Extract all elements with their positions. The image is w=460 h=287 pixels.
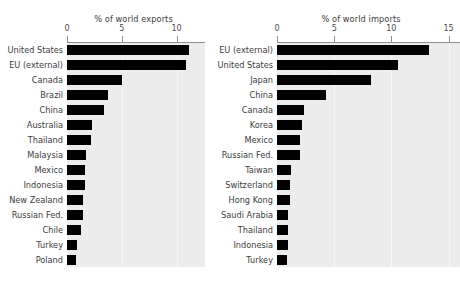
gridline-5 (122, 43, 123, 267)
category-label: Russian Fed. (0, 208, 63, 223)
tick-label-15: 15 (443, 24, 453, 33)
bar (277, 240, 288, 250)
tick-5 (334, 36, 335, 42)
figure-agricultural-trade-shares: % of world exports 0510United StatesEU (… (0, 0, 460, 287)
bar (67, 105, 104, 115)
tick-label-10: 10 (386, 24, 396, 33)
tick-15 (449, 36, 450, 42)
category-label: Indonesia (0, 178, 63, 193)
category-label: Canada (0, 73, 63, 88)
axis-line-imports (277, 42, 460, 43)
bar (277, 150, 300, 160)
tick-10 (391, 36, 392, 42)
bar (67, 120, 92, 130)
category-label: Turkey (0, 238, 63, 253)
gridline-10 (177, 43, 178, 267)
tick-label-0: 0 (274, 24, 279, 33)
axis-line-exports (67, 42, 205, 43)
tick-label-5: 5 (332, 24, 337, 33)
bar (277, 75, 371, 85)
category-label: Taiwan (215, 163, 273, 178)
tick-0 (67, 36, 68, 42)
tick-0 (277, 36, 278, 42)
bar (277, 135, 300, 145)
category-label: United States (215, 58, 273, 73)
bar (277, 255, 287, 265)
category-label: Turkey (215, 253, 273, 268)
bar (277, 195, 290, 205)
tick-5 (122, 36, 123, 42)
bar (67, 165, 85, 175)
category-label: China (0, 103, 63, 118)
tick-label-5: 5 (119, 24, 124, 33)
category-label: Saudi Arabia (215, 208, 273, 223)
category-label: Malaysia (0, 148, 63, 163)
bar (67, 135, 91, 145)
category-label: Poland (0, 253, 63, 268)
category-label: Chile (0, 223, 63, 238)
bar (277, 60, 398, 70)
bar (277, 90, 326, 100)
bar (277, 120, 302, 130)
category-label: Indonesia (215, 238, 273, 253)
category-label: Korea (215, 118, 273, 133)
category-label: Switzerland (215, 178, 273, 193)
category-label: Russian Fed. (215, 148, 273, 163)
category-label: Thailand (215, 223, 273, 238)
category-label: United States (0, 43, 63, 58)
bar (67, 75, 122, 85)
category-label: Thailand (0, 133, 63, 148)
bar (277, 165, 291, 175)
tick-label-10: 10 (171, 24, 181, 33)
category-label: EU (external) (0, 58, 63, 73)
category-label: Hong Kong (215, 193, 273, 208)
category-label: China (215, 88, 273, 103)
category-label: EU (external) (215, 43, 273, 58)
bar (67, 150, 86, 160)
category-label: New Zealand (0, 193, 63, 208)
category-label: Japan (215, 73, 273, 88)
tick-label-0: 0 (64, 24, 69, 33)
bar (67, 90, 108, 100)
category-label: Brazil (0, 88, 63, 103)
category-label: Australia (0, 118, 63, 133)
bar (67, 195, 83, 205)
bar (67, 180, 85, 190)
bar (67, 60, 186, 70)
category-label: Mexico (215, 133, 273, 148)
gridline-15 (449, 43, 450, 267)
plot-area-exports (67, 43, 205, 267)
bar (277, 180, 290, 190)
category-label: Canada (215, 103, 273, 118)
panel-exports: % of world exports 0510United StatesEU (… (0, 0, 215, 287)
gridline-10 (391, 43, 392, 267)
bar (67, 255, 76, 265)
axis-title-exports: % of world exports (0, 14, 215, 24)
bar (67, 45, 189, 55)
bar (67, 225, 81, 235)
bar (277, 105, 304, 115)
category-label: Mexico (0, 163, 63, 178)
bar (277, 210, 288, 220)
panel-imports: % of world imports 051015EU (external)Un… (215, 0, 460, 287)
tick-10 (177, 36, 178, 42)
bar (67, 240, 77, 250)
bar (67, 210, 83, 220)
bar (277, 225, 288, 235)
axis-title-imports: % of world imports (215, 14, 460, 24)
bar (277, 45, 429, 55)
plot-area-imports (277, 43, 460, 267)
